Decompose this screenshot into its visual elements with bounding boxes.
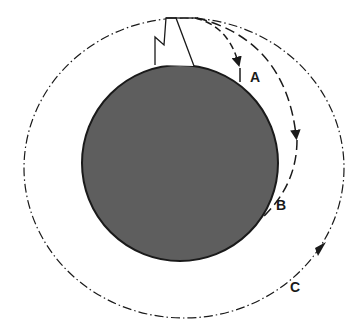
label-c: C: [290, 279, 300, 295]
trajectory-c-arrow-icon: [315, 242, 326, 256]
planet: [82, 65, 278, 261]
label-b: B: [276, 197, 286, 213]
mountain: [155, 18, 194, 66]
label-a: A: [250, 69, 260, 85]
orbit-diagram: A B C: [0, 0, 363, 334]
